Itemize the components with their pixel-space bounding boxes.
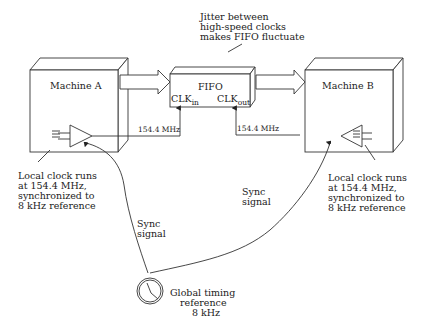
svg-text:8 kHz reference: 8 kHz reference — [18, 200, 96, 211]
svg-text:8 kHz reference: 8 kHz reference — [328, 202, 406, 213]
jitter-note: Jitter between high-speed clocks makes F… — [199, 11, 305, 52]
machine-a-box: Machine A — [30, 58, 128, 152]
sync-signal-b-line — [150, 143, 330, 273]
svg-text:8 kHz: 8 kHz — [192, 307, 220, 318]
sync-label-a: Sync signal — [137, 218, 166, 239]
sync-label-b: Sync signal — [242, 186, 271, 207]
data-arrow-fifo-to-b — [256, 70, 305, 94]
timing-diagram: Machine A Machine B FIFO CLKin CLKout Ji… — [0, 0, 424, 330]
clock-icon — [137, 278, 163, 304]
fifo-box: FIFO CLKin CLKout — [170, 67, 255, 107]
local-clock-note-b: Local clock runs at 154.4 MHz, synchroni… — [328, 172, 407, 213]
svg-text:signal: signal — [137, 228, 166, 239]
machine-b-label: Machine B — [322, 80, 374, 91]
freq-a-label: 154.4 MHz — [138, 125, 180, 134]
local-clock-note-a: Local clock runs at 154.4 MHz, synchroni… — [18, 170, 97, 211]
freq-b-label: 154.4 MHz — [237, 124, 279, 133]
machine-b-box: Machine B — [305, 58, 403, 152]
global-timing-reference-label: Global timing reference 8 kHz — [170, 287, 235, 318]
svg-text:makes FIFO fluctuate: makes FIFO fluctuate — [200, 31, 305, 42]
svg-text:signal: signal — [242, 196, 271, 207]
machine-a-label: Machine A — [50, 80, 102, 91]
fifo-label: FIFO — [198, 81, 223, 92]
